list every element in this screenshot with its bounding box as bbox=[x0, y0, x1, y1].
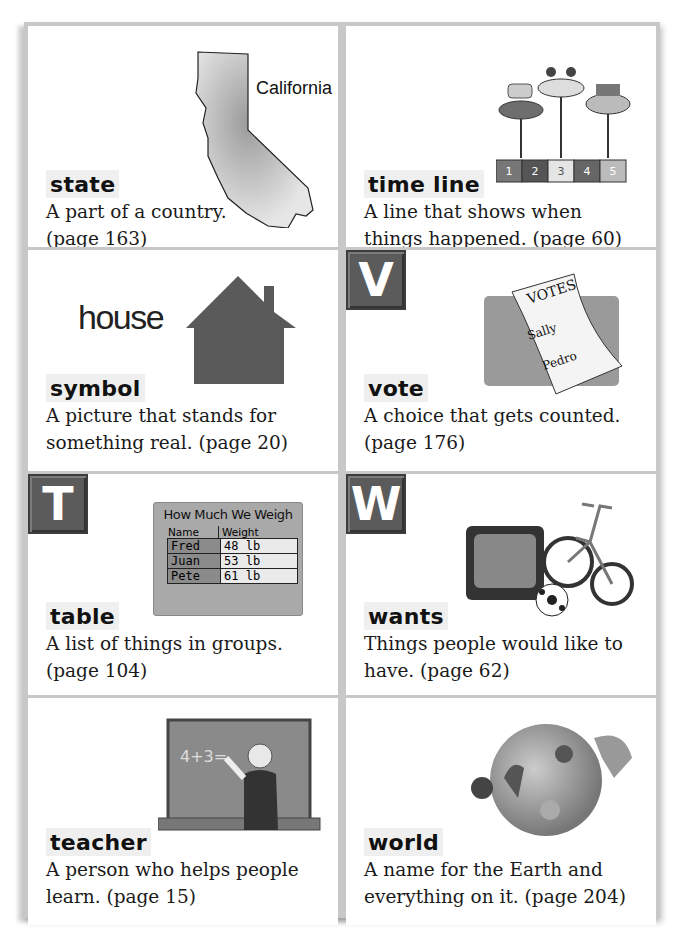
letter-badge-t: T bbox=[28, 474, 88, 534]
definition-state: A part of a country. (page 163) bbox=[46, 198, 328, 247]
term-teacher: teacher bbox=[46, 828, 151, 856]
table-row: Fred48 lb bbox=[168, 539, 298, 554]
card-state: California state A part of a country. (p… bbox=[28, 26, 338, 247]
svg-text:4+3=: 4+3= bbox=[180, 747, 227, 766]
card-symbol: house symbol A picture that stands for s… bbox=[28, 250, 338, 471]
svg-text:3: 3 bbox=[558, 165, 565, 178]
teacher-chalkboard-icon: 4+3= bbox=[158, 718, 323, 838]
letter-badge-v: V bbox=[346, 250, 406, 310]
california-label: California bbox=[256, 78, 332, 99]
globe-icon bbox=[464, 718, 644, 838]
svg-text:1: 1 bbox=[506, 165, 513, 178]
definition-wants: Things people would like to have. (page … bbox=[364, 630, 646, 684]
house-word: house bbox=[78, 298, 163, 337]
card-world: world A name for the Earth and everythin… bbox=[346, 698, 656, 925]
glossary-page: California state A part of a country. (p… bbox=[24, 22, 660, 918]
house-icon bbox=[186, 270, 298, 388]
card-vote: V VOTES Sally Pedro vote A choice that g… bbox=[346, 250, 656, 471]
svg-text:2: 2 bbox=[532, 165, 539, 178]
timeline-icon: 1 2 3 4 5 bbox=[496, 66, 636, 186]
definition-vote: A choice that gets counted. (page 176) bbox=[364, 402, 646, 456]
card-table: T How Much We Weigh NameWeight Fred48 lb… bbox=[28, 474, 338, 695]
table-row: Juan53 lb bbox=[168, 554, 298, 569]
svg-text:5: 5 bbox=[610, 165, 617, 178]
term-time-line: time line bbox=[364, 170, 484, 198]
card-wants: W wants Things people would like to have… bbox=[346, 474, 656, 695]
table-row: Pete61 lb bbox=[168, 569, 298, 584]
definition-symbol: A picture that stands for something real… bbox=[46, 402, 328, 456]
weight-table: How Much We Weigh NameWeight Fred48 lb J… bbox=[153, 502, 303, 616]
definition-time-line: A line that shows when things happened. … bbox=[364, 198, 646, 247]
glossary-grid: California state A part of a country. (p… bbox=[28, 26, 656, 914]
term-wants: wants bbox=[364, 602, 448, 630]
ballot-icon: VOTES Sally Pedro bbox=[474, 266, 634, 396]
term-world: world bbox=[364, 828, 443, 856]
definition-table: A list of things in groups. (page 104) bbox=[46, 630, 328, 684]
term-vote: vote bbox=[364, 374, 428, 402]
card-teacher: 4+3= teacher A person who helps people l… bbox=[28, 698, 338, 925]
term-state: state bbox=[46, 170, 119, 198]
term-symbol: symbol bbox=[46, 374, 145, 402]
svg-text:4: 4 bbox=[584, 165, 591, 178]
definition-world: A name for the Earth and everything on i… bbox=[364, 856, 646, 910]
letter-badge-w: W bbox=[346, 474, 406, 534]
tv-bike-ball-icon bbox=[464, 492, 634, 622]
term-table: table bbox=[46, 602, 119, 630]
card-time-line: 1 2 3 4 5 time line A line that shows wh… bbox=[346, 26, 656, 247]
definition-teacher: A person who helps people learn. (page 1… bbox=[46, 856, 328, 910]
